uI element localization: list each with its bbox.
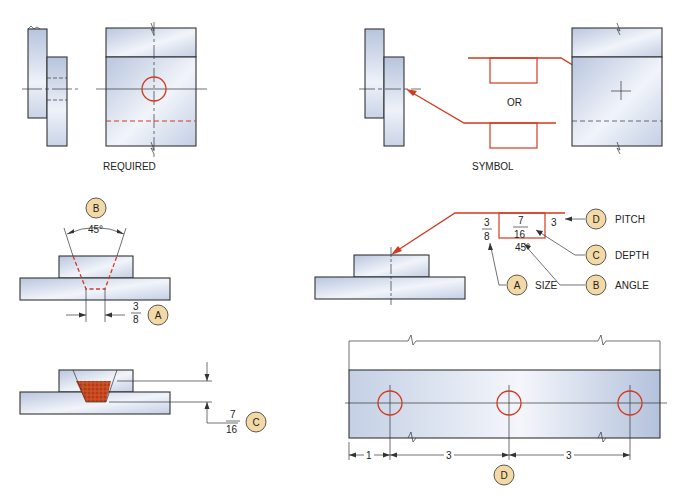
svg-text:1: 1 (366, 450, 372, 461)
mr-lower-plate (315, 277, 465, 299)
lower-plate (20, 278, 170, 300)
svg-text:7: 7 (230, 409, 236, 420)
symbol-view: OR SYMBOL (359, 23, 662, 172)
top-plate-upper (106, 28, 196, 57)
svg-text:3: 3 (484, 217, 490, 228)
svg-text:16: 16 (226, 424, 238, 435)
svg-text:DEPTH: DEPTH (615, 250, 649, 261)
plug-symbol-lower (490, 123, 537, 148)
svg-text:D: D (592, 214, 599, 225)
pitch-view: 1 3 3 D (345, 335, 667, 485)
side-plate-back (28, 29, 47, 118)
callout-size: A SIZE (507, 275, 558, 295)
svg-text:3: 3 (566, 450, 572, 461)
or-label: OR (507, 97, 522, 108)
mr-upper-plate (354, 255, 429, 277)
svg-text:D: D (500, 470, 507, 481)
svg-text:3: 3 (551, 217, 557, 228)
svg-text:C: C (592, 250, 599, 261)
svg-text:ANGLE: ANGLE (615, 280, 649, 291)
callout-depth: C DEPTH (586, 245, 649, 265)
side-plate-front (47, 57, 67, 146)
svg-text:B: B (93, 203, 100, 214)
svg-text:PITCH: PITCH (615, 214, 645, 225)
top-plate-lower (106, 57, 196, 146)
upper-plate (59, 256, 133, 278)
required-caption: REQUIRED (103, 161, 156, 172)
symbol-plate-upper (572, 28, 662, 57)
symbol-reference-line-lower (411, 92, 556, 123)
symbol-caption: SYMBOL (472, 161, 514, 172)
fill-depth-view: 7 16 C (20, 362, 266, 435)
angle-45: 45° (88, 224, 103, 235)
countersink-angle-view: B 45° 3 8 A (20, 198, 170, 325)
svg-text:C: C (252, 417, 259, 428)
bar-plate (349, 370, 660, 438)
svg-text:7: 7 (518, 215, 524, 226)
svg-text:16: 16 (514, 229, 526, 240)
svg-text:8: 8 (484, 231, 490, 242)
symbol-plate-lower (572, 57, 662, 146)
symbol-dimension-view: 3 8 7 16 3 45° D PITCH C DEPTH (315, 209, 649, 305)
svg-text:3: 3 (446, 450, 452, 461)
plug-symbol-upper (490, 58, 537, 83)
svg-text:SIZE: SIZE (535, 280, 558, 291)
symbol-side-back (365, 29, 384, 118)
svg-text:B: B (593, 280, 600, 291)
symbol-side-front (384, 57, 404, 146)
svg-text:A: A (155, 310, 162, 321)
callout-angle: B ANGLE (586, 275, 649, 295)
svg-text:3: 3 (133, 301, 139, 312)
plug-weld-diagram: REQUIRED OR SYMBOL B 45° (0, 0, 682, 495)
svg-text:8: 8 (133, 314, 139, 325)
callout-pitch: D PITCH (586, 209, 645, 229)
svg-text:A: A (514, 280, 521, 291)
required-view: REQUIRED (22, 22, 207, 172)
